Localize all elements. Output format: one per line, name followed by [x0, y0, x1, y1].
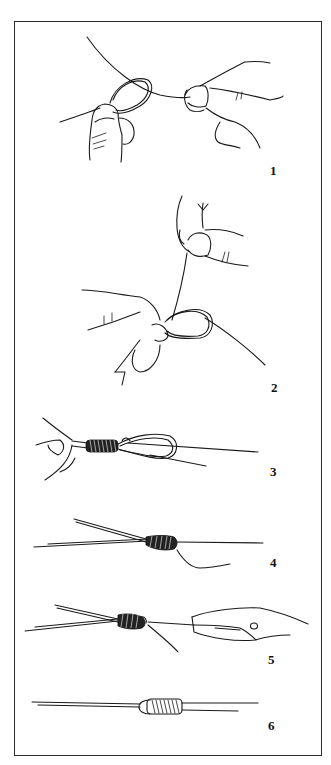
step-number-1: 1	[270, 164, 277, 177]
step-number-6: 6	[268, 719, 275, 732]
step-number-3: 3	[270, 465, 277, 478]
step-4-drawing	[34, 519, 263, 568]
step-number-4: 4	[270, 556, 277, 569]
step-3-drawing	[36, 418, 258, 480]
step-2-drawing	[82, 196, 265, 385]
step-5-drawing	[25, 605, 308, 652]
step-number-2: 2	[271, 381, 278, 394]
step-6-drawing	[32, 699, 258, 714]
step-number-5: 5	[268, 653, 275, 666]
step-1-drawing	[60, 37, 283, 162]
knot-illustration	[0, 0, 331, 765]
